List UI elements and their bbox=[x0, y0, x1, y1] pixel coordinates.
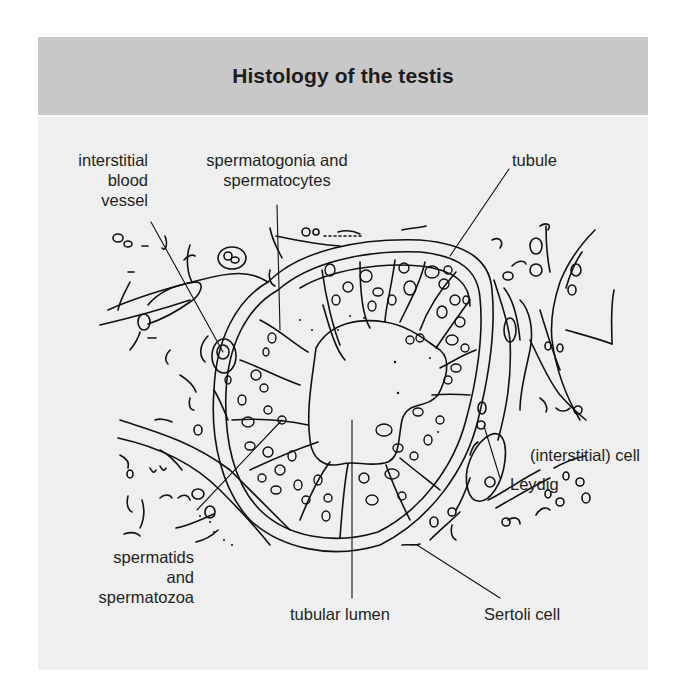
label-tubule: tubule bbox=[512, 150, 557, 170]
label-line: spermatozoa bbox=[60, 587, 194, 607]
leader-lines bbox=[151, 169, 509, 598]
label-line: Sertoli cell bbox=[484, 604, 560, 624]
label-line: vessel bbox=[50, 190, 148, 210]
leader-interstitial-blood-vessel bbox=[151, 222, 223, 352]
label-spermatids-spermatozoa: spermatids and spermatozoa bbox=[60, 547, 194, 607]
interstitial-tissue-top bbox=[269, 226, 426, 286]
leader-tubule bbox=[450, 169, 509, 256]
label-leydig-cell: (interstitial) cell bbox=[500, 445, 640, 465]
label-line: spermatids bbox=[60, 547, 194, 567]
label-line: spermatocytes bbox=[182, 170, 372, 190]
label-line: interstitial bbox=[50, 150, 148, 170]
label-line: spermatogonia and bbox=[182, 150, 372, 170]
label-line: (interstitial) cell bbox=[500, 445, 640, 465]
label-line: blood bbox=[50, 170, 148, 190]
label-line: and bbox=[60, 567, 194, 587]
label-line: tubular lumen bbox=[290, 604, 390, 624]
interstitial-tissue-right bbox=[402, 224, 614, 545]
label-spermatogonia-spermatocytes: spermatogonia and spermatocytes bbox=[182, 150, 372, 190]
label-tubular-lumen: tubular lumen bbox=[290, 604, 390, 624]
label-line: Leydig bbox=[510, 474, 559, 494]
leader-sertoli bbox=[417, 545, 500, 598]
label-interstitial-blood-vessel: interstitial blood vessel bbox=[50, 150, 148, 210]
leader-spermatids bbox=[197, 420, 282, 510]
leader-spermatogonia bbox=[277, 205, 280, 330]
tubular-lumen-outline bbox=[309, 321, 447, 465]
label-line: tubule bbox=[512, 150, 557, 170]
label-leydig: Leydig bbox=[510, 474, 559, 494]
label-sertoli-cell: Sertoli cell bbox=[484, 604, 560, 624]
interstitial-tissue-left bbox=[100, 234, 290, 545]
